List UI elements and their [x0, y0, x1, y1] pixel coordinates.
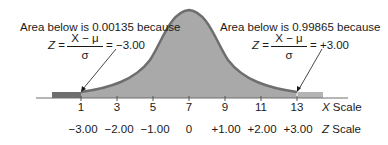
left-annotation-fraction-bar: [67, 46, 103, 47]
z-tick-label: +1.00: [211, 124, 240, 136]
x-tick-label: 9: [222, 102, 228, 114]
z-tick-label: +3.00: [283, 124, 312, 136]
z-tick-label: 0: [186, 124, 192, 136]
x-tick-label: 11: [255, 102, 267, 114]
z-tick-label: −3.00: [68, 124, 97, 136]
x-scale-label: X Scale: [322, 102, 362, 114]
right-annotation-denominator: σ: [270, 50, 308, 62]
x-tick-label: 3: [114, 102, 120, 114]
left-annotation-numerator: X − μ: [66, 33, 104, 45]
z-tick-label: −1.00: [140, 124, 169, 136]
right-annotation-result: = +3.00: [310, 40, 349, 52]
left-tail-shaded: [52, 92, 81, 98]
z-tick-label: +2.00: [247, 124, 276, 136]
right-annotation-fraction-bar: [271, 46, 307, 47]
z-scale-label: Z Scale: [322, 124, 361, 136]
normal-distribution-figure: Area below is 0.00135 because Z = X − μ …: [0, 0, 388, 145]
x-tick-label: 13: [291, 102, 304, 114]
left-annotation-text: Area below is 0.00135 because: [20, 22, 180, 34]
right-tail-shaded: [297, 92, 323, 98]
z-tick-label: −2.00: [104, 124, 133, 136]
left-annotation-z-lhs: Z =: [48, 40, 65, 52]
x-tick-label: 5: [150, 102, 156, 114]
left-annotation-result: = −3.00: [106, 40, 145, 52]
right-annotation-numerator: X − μ: [270, 33, 308, 45]
left-annotation-denominator: σ: [66, 50, 104, 62]
x-tick-label: 1: [78, 102, 84, 114]
x-tick-label: 7: [186, 102, 192, 114]
right-annotation-z-lhs: Z =: [252, 40, 269, 52]
